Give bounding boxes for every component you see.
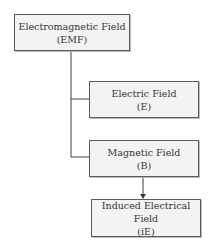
node-induced-title: Induced Electrical Field <box>92 199 200 225</box>
node-emf-abbr: (EMF) <box>57 33 88 46</box>
node-induced-abbr: (iE) <box>137 225 154 238</box>
node-magnetic-title: Magnetic Field <box>108 146 181 159</box>
node-electric-title: Electric Field <box>111 87 176 100</box>
node-electric-field: Electric Field (E) <box>89 81 199 118</box>
node-emf: Electromagnetic Field (EMF) <box>14 14 130 51</box>
node-emf-title: Electromagnetic Field <box>18 20 125 33</box>
node-magnetic-field: Magnetic Field (B) <box>89 140 199 177</box>
node-electric-abbr: (E) <box>137 100 151 113</box>
node-induced-electrical-field: Induced Electrical Field (iE) <box>91 199 201 237</box>
node-magnetic-abbr: (B) <box>137 159 151 172</box>
